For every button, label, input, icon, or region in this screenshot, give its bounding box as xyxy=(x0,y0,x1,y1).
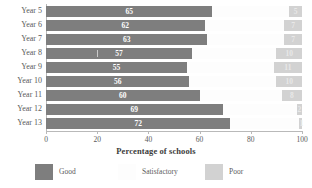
segment-value: 56 xyxy=(46,76,189,87)
x-axis-tick xyxy=(46,131,47,134)
x-axis-tick xyxy=(148,131,149,134)
x-axis-tick-label: 0 xyxy=(44,135,48,144)
segment-value: 60 xyxy=(46,90,200,101)
segment-good: 72 xyxy=(46,118,230,129)
bar-inner-tick xyxy=(97,50,98,57)
legend-swatch xyxy=(35,164,53,180)
segment-value: 1 xyxy=(299,118,302,129)
legend-swatch xyxy=(118,164,136,180)
category-label: Year 5 xyxy=(0,5,42,16)
bar-row: Year 12692 xyxy=(46,104,302,115)
segment-satisfactory xyxy=(187,62,274,73)
x-axis-tick xyxy=(97,131,98,134)
stacked-bar-chart: Year 5655Year 6627Year 7637Year 85710Yea… xyxy=(0,0,312,188)
x-axis-tick-label: 40 xyxy=(145,135,153,144)
segment-value: 10 xyxy=(276,48,302,59)
segment-value: 62 xyxy=(46,20,205,31)
segment-poor: 11 xyxy=(274,62,302,73)
segment-value: 2 xyxy=(297,104,302,115)
category-label: Year 13 xyxy=(0,117,42,128)
segment-satisfactory xyxy=(223,104,297,115)
segment-value: 65 xyxy=(46,6,212,17)
segment-good: 63 xyxy=(46,34,207,45)
legend-label: Good xyxy=(59,164,76,180)
x-axis-tick-label: 20 xyxy=(93,135,101,144)
category-label: Year 6 xyxy=(0,19,42,30)
segment-poor: 7 xyxy=(284,34,302,45)
segment-good: 55 xyxy=(46,62,187,73)
category-label: Year 7 xyxy=(0,33,42,44)
segment-satisfactory xyxy=(200,90,282,101)
segment-poor: 10 xyxy=(276,76,302,87)
bar-row: Year 85710 xyxy=(46,48,302,59)
segment-poor: 2 xyxy=(297,104,302,115)
segment-good: 69 xyxy=(46,104,223,115)
segment-poor: 7 xyxy=(284,20,302,31)
segment-good: 65 xyxy=(46,6,212,17)
segment-value: 5 xyxy=(289,6,302,17)
segment-value: 10 xyxy=(276,76,302,87)
category-label: Year 8 xyxy=(0,47,42,58)
segment-value: 69 xyxy=(46,104,223,115)
x-axis-tick xyxy=(200,131,201,134)
x-axis-tick xyxy=(251,131,252,134)
segment-satisfactory xyxy=(212,6,289,17)
category-label: Year 9 xyxy=(0,61,42,72)
segment-value: 7 xyxy=(284,34,302,45)
x-axis-tick xyxy=(302,131,303,134)
segment-satisfactory xyxy=(205,20,284,31)
bar-row: Year 95511 xyxy=(46,62,302,73)
x-axis-line xyxy=(46,131,303,132)
segment-value: 55 xyxy=(46,62,187,73)
x-axis-title: Percentage of schools xyxy=(0,146,312,156)
bar-row: Year 5655 xyxy=(46,6,302,17)
segment-poor: 10 xyxy=(276,48,302,59)
segment-poor: 5 xyxy=(289,6,302,17)
segment-value: 8 xyxy=(282,90,302,101)
category-label: Year 12 xyxy=(0,103,42,114)
segment-good: 57 xyxy=(46,48,192,59)
segment-value: 72 xyxy=(46,118,230,129)
segment-value: 63 xyxy=(46,34,207,45)
category-label: Year 11 xyxy=(0,89,42,100)
category-label: Year 10 xyxy=(0,75,42,86)
segment-value: 11 xyxy=(274,62,302,73)
segment-value: 57 xyxy=(46,48,192,59)
segment-poor: 1 xyxy=(299,118,302,129)
bar-row: Year 7637 xyxy=(46,34,302,45)
x-axis-tick-label: 60 xyxy=(196,135,204,144)
x-axis-tick-label: 100 xyxy=(296,135,307,144)
segment-satisfactory xyxy=(192,48,276,59)
segment-value: 7 xyxy=(284,20,302,31)
bar-row: Year 13721 xyxy=(46,118,302,129)
bar-row: Year 6627 xyxy=(46,20,302,31)
segment-satisfactory xyxy=(230,118,299,129)
bar-row: Year 11608 xyxy=(46,90,302,101)
segment-poor: 8 xyxy=(282,90,302,101)
segment-satisfactory xyxy=(207,34,284,45)
segment-good: 56 xyxy=(46,76,189,87)
legend-label: Poor xyxy=(229,164,243,180)
chart-legend: GoodSatisfactoryPoor xyxy=(0,164,312,186)
segment-good: 62 xyxy=(46,20,205,31)
bar-row: Year 105610 xyxy=(46,76,302,87)
segment-good: 60 xyxy=(46,90,200,101)
segment-satisfactory xyxy=(189,76,276,87)
x-axis-tick-label: 80 xyxy=(247,135,255,144)
legend-label: Satisfactory xyxy=(142,164,178,180)
legend-swatch xyxy=(205,164,223,180)
plot-area: Year 5655Year 6627Year 7637Year 85710Yea… xyxy=(46,4,302,130)
